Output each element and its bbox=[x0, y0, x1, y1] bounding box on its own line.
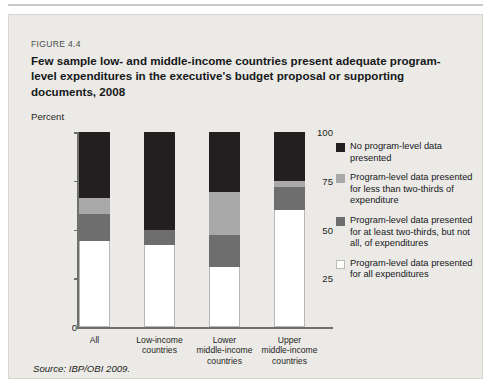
bar-segment bbox=[79, 198, 110, 214]
bar-segment bbox=[79, 214, 110, 241]
bar-2 bbox=[144, 132, 175, 327]
legend-item-label: Program-level data presented for at leas… bbox=[350, 215, 476, 250]
bar-4 bbox=[274, 132, 305, 327]
bar-segment bbox=[144, 132, 175, 230]
plot-area: 255075100 AllLow-incomecountriesLowermid… bbox=[33, 125, 333, 330]
bar-segment bbox=[209, 235, 240, 266]
figure-panel: FIGURE 4.4 Few sample low- and middle-in… bbox=[8, 14, 483, 379]
bar-segment bbox=[79, 132, 110, 198]
x-axis-label-line: middle-income bbox=[252, 345, 328, 355]
legend-swatch-icon bbox=[336, 217, 345, 226]
bars-layer bbox=[33, 125, 333, 330]
y-axis-unit-label: Percent bbox=[31, 111, 64, 122]
y-axis-tick-label: 0 bbox=[41, 322, 77, 333]
figure-title: Few sample low- and middle-income countr… bbox=[31, 53, 461, 99]
bar-segment bbox=[144, 245, 175, 327]
source-note: Source: IBP/OBI 2009. bbox=[33, 363, 130, 374]
bar-segment bbox=[79, 241, 110, 327]
bar-segment bbox=[209, 132, 240, 192]
legend-item[interactable]: No program-level data presented bbox=[336, 141, 476, 164]
legend-item-label: No program-level data presented bbox=[350, 141, 476, 164]
bar-segment bbox=[209, 267, 240, 327]
x-axis-label-line: countries bbox=[252, 356, 328, 366]
bar-segment bbox=[144, 230, 175, 246]
figure-root: FIGURE 4.4 Few sample low- and middle-in… bbox=[0, 0, 491, 385]
legend-item[interactable]: Program-level data presented for all exp… bbox=[336, 258, 476, 281]
bar-segment bbox=[274, 187, 305, 210]
legend-item[interactable]: Program-level data presented for less th… bbox=[336, 172, 476, 207]
legend-item[interactable]: Program-level data presented for at leas… bbox=[336, 215, 476, 250]
x-axis-label-4: Uppermiddle-incomecountries bbox=[252, 335, 328, 366]
x-axis-label-line: Upper bbox=[252, 335, 328, 345]
chart-legend: No program-level data presentedProgram-l… bbox=[336, 141, 476, 289]
bar-segment bbox=[274, 132, 305, 181]
legend-swatch-icon bbox=[336, 143, 345, 152]
bar-segment bbox=[274, 210, 305, 327]
legend-item-label: Program-level data presented for all exp… bbox=[350, 258, 476, 281]
legend-swatch-icon bbox=[336, 174, 345, 183]
figure-number: FIGURE 4.4 bbox=[31, 39, 81, 49]
legend-item-label: Program-level data presented for less th… bbox=[350, 172, 476, 207]
legend-swatch-icon bbox=[336, 260, 345, 269]
top-divider bbox=[8, 4, 483, 6]
bar-3 bbox=[209, 132, 240, 327]
bar-1 bbox=[79, 132, 110, 327]
bar-segment bbox=[209, 192, 240, 235]
